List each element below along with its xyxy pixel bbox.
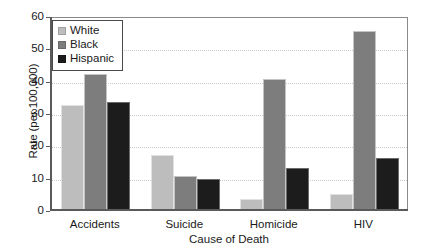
bar-black-hiv [353,31,376,210]
x-tick-label: Suicide [140,219,230,231]
bar-hispanic-hiv [376,158,399,210]
y-tick-label: 20 [18,140,44,152]
legend-swatch-black-icon [58,41,66,49]
legend-item-hispanic: Hispanic [58,52,117,66]
bar-white-accidents [61,105,84,210]
y-tick-label: 30 [18,108,44,120]
y-tick-label: 0 [18,205,44,217]
x-axis-title: Cause of Death [50,234,408,246]
y-tick-label: 10 [18,173,44,185]
bar-white-suicide [151,155,174,210]
bar-hispanic-homicide [286,168,309,210]
x-tick-label: Homicide [229,219,319,231]
legend-label: Hispanic [70,53,114,65]
x-axis-spine [50,209,408,211]
y-tick-label: 50 [18,43,44,55]
legend-label: Black [70,39,98,51]
bar-black-homicide [263,79,286,210]
y-tick-label: 40 [18,76,44,88]
bar-white-hiv [330,194,353,210]
legend-item-white: White [58,24,117,38]
bar-chart: Rate (per 100,000) 0102030405060 WhiteBl… [0,0,421,252]
x-tick-label: HIV [319,219,409,231]
bar-hispanic-accidents [107,102,130,210]
y-tick-mark [46,211,50,212]
bar-black-suicide [174,176,197,210]
legend-swatch-hispanic-icon [58,55,66,63]
legend-label: White [70,25,99,37]
x-tick-label: Accidents [50,219,140,231]
legend-item-black: Black [58,38,117,52]
bar-black-accidents [84,74,107,210]
legend: WhiteBlackHispanic [52,20,123,71]
y-tick-label: 60 [18,11,44,23]
legend-swatch-white-icon [58,27,66,35]
bar-hispanic-suicide [197,179,220,210]
